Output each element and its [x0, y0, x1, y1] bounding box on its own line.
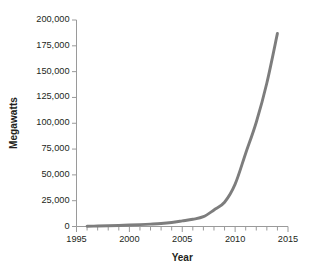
- y-axis-title: Megawatts: [8, 97, 19, 149]
- x-tick-label: 1995: [55, 234, 99, 244]
- y-tick-label: 100,000: [36, 117, 69, 127]
- y-tick-label: 75,000: [41, 143, 69, 153]
- y-tick-label: 25,000: [41, 195, 69, 205]
- data-series-line: [87, 33, 277, 226]
- x-tick-label: 2000: [107, 234, 151, 244]
- x-tick-label: 2005: [160, 234, 204, 244]
- y-tick-label: 175,000: [36, 40, 69, 50]
- y-tick-label: 125,000: [36, 91, 69, 101]
- y-tick-label: 50,000: [41, 169, 69, 179]
- x-axis-title: Year: [0, 252, 311, 263]
- y-tick-label: 200,000: [36, 14, 69, 24]
- y-tick-label: 150,000: [36, 66, 69, 76]
- x-tick-label: 2010: [213, 234, 257, 244]
- chart-container: Megawatts Year 025,00050,00075,000100,00…: [0, 0, 311, 273]
- x-tick-label: 2015: [266, 234, 310, 244]
- y-tick-label: 0: [64, 221, 69, 231]
